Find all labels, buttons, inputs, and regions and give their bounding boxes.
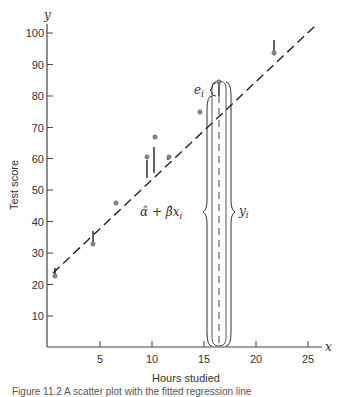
- x-tick-labels: 5 10 15 20 25: [97, 353, 314, 365]
- residual-brace: [210, 83, 216, 96]
- data-point: [114, 201, 118, 205]
- x-ticks: [100, 341, 308, 347]
- data-point: [167, 155, 171, 159]
- y-ticks: [47, 33, 53, 316]
- svg-text:15: 15: [198, 353, 210, 365]
- svg-text:30: 30: [32, 247, 44, 259]
- svg-text:5: 5: [97, 353, 103, 365]
- y-tick-labels: 100 90 80 70 60 50 40 30 20 10: [26, 27, 44, 322]
- x-axis-symbol: x: [325, 340, 332, 354]
- fitted-value-label: α̂ + β̂xi: [140, 205, 183, 221]
- x-axis-title: Hours studied: [152, 372, 220, 384]
- svg-text:70: 70: [32, 122, 44, 134]
- data-point: [91, 242, 95, 246]
- svg-text:10: 10: [146, 353, 158, 365]
- y-axis-symbol: y: [43, 8, 51, 22]
- svg-text:10: 10: [32, 310, 44, 322]
- svg-text:90: 90: [32, 59, 44, 71]
- data-point: [217, 80, 221, 84]
- data-point: [53, 274, 57, 278]
- residual-label: ei: [194, 83, 204, 99]
- svg-text:25: 25: [302, 353, 314, 365]
- svg-text:100: 100: [26, 27, 44, 39]
- data-point: [153, 135, 157, 139]
- y-axis-title: Test score: [8, 160, 20, 210]
- observed-value-brace: [226, 82, 235, 346]
- data-point: [272, 51, 276, 55]
- fitted-value-brace: [203, 96, 212, 346]
- figure-caption: Figure 11.2 A scatter plot with the fitt…: [12, 386, 251, 397]
- svg-text:60: 60: [32, 153, 44, 165]
- svg-text:40: 40: [32, 216, 44, 228]
- data-point: [145, 155, 149, 159]
- svg-text:50: 50: [32, 184, 44, 196]
- data-point: [198, 110, 202, 114]
- data-points: [53, 51, 276, 278]
- svg-text:20: 20: [250, 353, 262, 365]
- svg-text:20: 20: [32, 279, 44, 291]
- observed-value-label: yi: [238, 204, 249, 220]
- svg-text:80: 80: [32, 90, 44, 102]
